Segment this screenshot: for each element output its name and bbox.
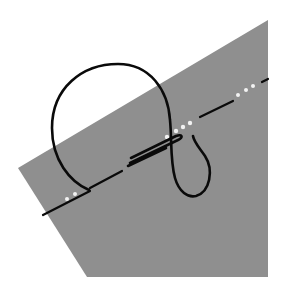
knot-diagram — [0, 0, 286, 291]
diagram-canvas — [0, 0, 286, 291]
